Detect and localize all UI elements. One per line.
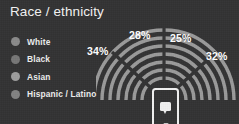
legend-color-dot-white — [11, 37, 20, 46]
race-ethnicity-infographic-panel: Race / ethnicity White Black Asian Hispa… — [0, 0, 239, 124]
phone-home-button-icon — [163, 123, 168, 124]
legend-label-hispanic-latino: Hispanic / Latino — [27, 89, 97, 99]
legend-label-asian: Asian — [27, 72, 51, 82]
legend-color-dot-asian — [11, 72, 20, 81]
percentage-label-asian: 25% — [170, 32, 192, 44]
percentage-label-black: 28% — [129, 29, 151, 41]
tablet-phone-icon — [152, 88, 179, 124]
page-title: Race / ethnicity — [10, 4, 104, 19]
speech-bubble-icon — [160, 102, 171, 111]
percentage-label-white: 34% — [87, 45, 109, 57]
legend-label-white: White — [27, 37, 51, 47]
phone-screen — [156, 93, 175, 121]
legend-color-dot-hispanic-latino — [11, 90, 20, 99]
percentage-label-hispanic-latino: 32% — [206, 50, 228, 62]
legend-color-dot-black — [11, 55, 20, 64]
legend-label-black: Black — [27, 54, 50, 64]
